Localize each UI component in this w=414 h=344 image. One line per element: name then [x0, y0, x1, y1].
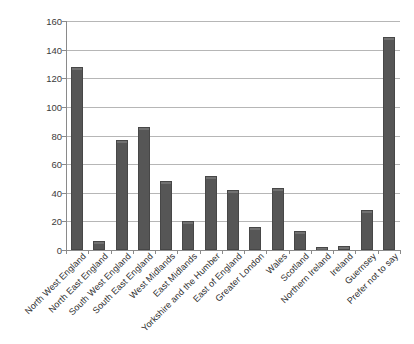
bar[interactable]: [227, 190, 239, 250]
bar[interactable]: [205, 176, 217, 250]
gridline: [66, 21, 400, 22]
bar[interactable]: [182, 221, 194, 250]
bar[interactable]: [71, 67, 83, 250]
bar[interactable]: [160, 181, 172, 250]
y-tick-label: 40: [6, 187, 62, 198]
y-axis-labels: 020406080100120140160: [0, 21, 62, 250]
bar-chart: 020406080100120140160 North West England…: [0, 0, 414, 344]
y-tick-label: 80: [6, 130, 62, 141]
bar[interactable]: [249, 227, 261, 250]
gridline: [66, 50, 400, 51]
bar[interactable]: [383, 37, 395, 250]
y-tick-label: 140: [6, 44, 62, 55]
y-tick-label: 60: [6, 159, 62, 170]
y-tick-label: 120: [6, 73, 62, 84]
gridline: [66, 136, 400, 137]
plot-area: [66, 21, 400, 250]
chart-title-remnant: [0, 0, 414, 2]
y-tick-label: 160: [6, 16, 62, 27]
y-tick-label: 20: [6, 216, 62, 227]
bar[interactable]: [294, 231, 306, 250]
y-tick-label: 100: [6, 101, 62, 112]
bar[interactable]: [138, 127, 150, 250]
gridline: [66, 107, 400, 108]
bar[interactable]: [361, 210, 373, 250]
y-axis-line: [66, 21, 67, 251]
bar[interactable]: [272, 188, 284, 250]
x-axis-labels: North West EnglandNorth East EnglandSout…: [0, 251, 414, 344]
bar[interactable]: [116, 140, 128, 250]
gridline: [66, 78, 400, 79]
bar[interactable]: [93, 241, 105, 250]
